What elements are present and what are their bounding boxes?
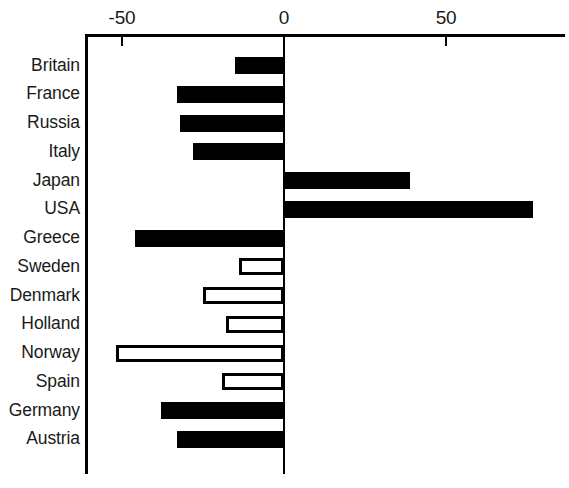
category-label-holland: Holland [2,313,80,334]
category-label-sweden: Sweden [2,256,80,277]
left-axis-line [85,34,88,474]
x-tick-mark [445,37,447,46]
bar-austria [177,431,284,448]
bar-denmark [203,287,284,304]
category-label-russia: Russia [2,112,80,133]
bar-germany [161,402,284,419]
bar-holland [226,316,284,333]
category-label-france: France [2,83,80,104]
category-label-japan: Japan [2,170,80,191]
category-label-norway: Norway [2,342,80,363]
category-label-greece: Greece [2,227,80,248]
category-axis-labels: BritainFranceRussiaItalyJapanUSAGreeceSw… [0,0,80,488]
bar-greece [135,230,284,247]
bar-norway [116,345,284,362]
category-label-spain: Spain [2,371,80,392]
bar-spain [222,373,284,390]
x-tick-mark [283,37,285,46]
x-tick-label: 0 [254,7,314,29]
bar-sweden [239,258,284,275]
bar-japan [284,172,410,189]
bar-italy [193,143,284,160]
category-label-britain: Britain [2,55,80,76]
bar-russia [180,115,284,132]
category-label-usa: USA [2,198,80,219]
bar-france [177,86,284,103]
bar-chart: -50050 BritainFranceRussiaItalyJapanUSAG… [0,0,569,488]
x-tick-label: 50 [416,7,476,29]
bar-britain [235,57,284,74]
category-label-austria: Austria [2,428,80,449]
category-label-italy: Italy [2,141,80,162]
bar-usa [284,201,533,218]
top-axis-line [85,34,565,37]
x-tick-label: -50 [92,7,152,29]
category-label-denmark: Denmark [2,285,80,306]
category-label-germany: Germany [2,400,80,421]
x-tick-mark [121,37,123,46]
